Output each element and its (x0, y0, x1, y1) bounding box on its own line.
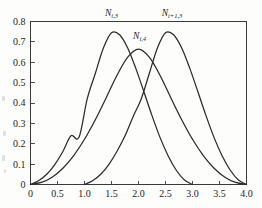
x-tick-label: 0.5 (51, 188, 64, 199)
right-curve-label-text: Ni+1,3 (161, 8, 183, 19)
x-tick-label: 2.0 (132, 188, 145, 199)
plot-frame (31, 22, 247, 185)
y-tick-label: 0.2 (13, 138, 26, 149)
y-tick-label: 0.6 (13, 57, 26, 68)
x-tick-label: 1.0 (78, 188, 91, 199)
y-tick-label: 0.4 (13, 97, 26, 108)
x-tick-label: 4.0 (240, 188, 253, 199)
b-spline-basis-functions-figure: 00.51.01.52.02.53.03.54.0 00.10.20.30.40… (0, 0, 262, 208)
x-tick-label: 1.5 (105, 188, 118, 199)
right-curve-label: Ni+1,3 (161, 8, 183, 19)
axis-ticks (31, 22, 247, 185)
y-tick-label: 0.5 (13, 77, 26, 88)
x-tick-label: 3.0 (186, 188, 199, 199)
curve-n-i-4 (31, 49, 247, 184)
y-axis-tick-labels: 00.10.20.30.40.50.60.70.8 (13, 16, 26, 190)
curve-group (31, 32, 247, 185)
plot-canvas: 00.51.01.52.02.53.03.54.0 00.10.20.30.40… (0, 0, 262, 208)
y-tick-label: 0.7 (13, 36, 26, 47)
curve-annotations: Ni,3Ni,4Ni+1,3 (104, 8, 183, 43)
x-axis-tick-labels: 00.51.01.52.02.53.03.54.0 (28, 188, 253, 199)
x-tick-label: 2.5 (159, 188, 172, 199)
y-tick-label: 0 (21, 179, 26, 190)
x-tick-label: 3.5 (213, 188, 226, 199)
y-tick-label: 0.8 (13, 16, 26, 27)
y-tick-label: 0.1 (13, 159, 26, 170)
plot-box (31, 22, 247, 185)
left-curve-label-text: Ni,3 (104, 8, 119, 19)
curve-n-i-1-3 (85, 32, 247, 185)
middle-curve-label-text: Ni,4 (132, 31, 147, 42)
x-tick-label: 0 (28, 188, 33, 199)
y-tick-label: 0.3 (13, 118, 26, 129)
left-curve-label: Ni,3 (104, 8, 119, 19)
middle-curve-label: Ni,4 (132, 31, 147, 42)
